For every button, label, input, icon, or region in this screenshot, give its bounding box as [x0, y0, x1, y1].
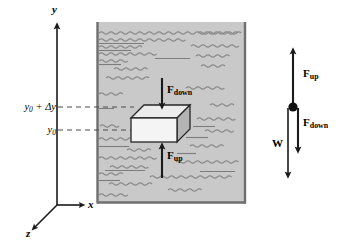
tick-upper-delta: + Δy — [33, 101, 56, 112]
block-f-down-subscript: down — [174, 88, 192, 97]
z-axis-line — [34, 205, 57, 228]
free-body-point-mass — [288, 102, 297, 111]
block-f-up-symbol: F — [167, 149, 174, 161]
block-f-down-symbol: F — [167, 83, 174, 95]
free-body-f-down-symbol: F — [303, 116, 310, 128]
tick-lower-subscript: 0 — [52, 128, 56, 137]
diagram-canvas — [0, 0, 340, 245]
free-body-f-up-label: Fup — [303, 68, 319, 79]
free-body-f-up-subscript: up — [310, 72, 319, 81]
free-body-weight-symbol: W — [272, 137, 283, 149]
x-axis-label: x — [88, 199, 94, 210]
tick-upper-subscript: 0 — [29, 105, 33, 114]
free-body-f-up-symbol: F — [303, 67, 310, 79]
block-f-up-label: Fup — [167, 150, 183, 161]
free-body-diagram — [288, 51, 298, 175]
free-body-f-down-subscript: down — [310, 121, 328, 130]
z-axis-label: z — [26, 228, 30, 239]
buoyancy-diagram: y x z y0 + Δy y0 Fdown Fup Fup Fdown W — [0, 0, 340, 245]
y-axis-label: y — [52, 4, 57, 15]
free-body-f-down-label: Fdown — [303, 117, 328, 128]
tick-label-upper: y0 + Δy — [0, 102, 56, 113]
block-front-face — [131, 118, 177, 142]
block-f-up-subscript: up — [174, 154, 183, 163]
block-f-down-label: Fdown — [167, 84, 192, 95]
submerged-block — [131, 105, 190, 142]
free-body-weight-label: W — [272, 138, 283, 149]
tick-label-lower: y0 — [0, 125, 56, 136]
